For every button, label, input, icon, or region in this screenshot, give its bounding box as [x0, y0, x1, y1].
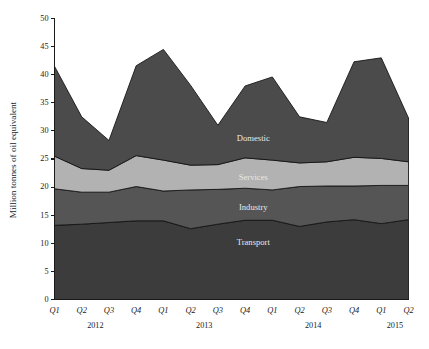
- series-label-domestic: Domestic: [237, 133, 270, 143]
- series-label-services: Services: [239, 172, 269, 182]
- x-tick-label: Q3: [322, 306, 332, 315]
- series-band-transport: [55, 220, 409, 300]
- y-tick-label: 35: [40, 98, 48, 107]
- y-tick-label: 0: [44, 295, 48, 304]
- x-tick-label: Q2: [186, 306, 196, 315]
- x-tick-label: Q4: [131, 306, 141, 315]
- x-tick-label: Q1: [376, 306, 386, 315]
- series-label-transport: Transport: [237, 237, 271, 247]
- year-label-2015: 2015: [387, 321, 403, 330]
- y-tick-label: 10: [40, 239, 48, 248]
- x-tick-label: Q2: [294, 306, 304, 315]
- y-tick-label: 30: [40, 126, 48, 135]
- x-tick-label: Q2: [403, 306, 413, 315]
- y-tick-label: 40: [40, 70, 48, 79]
- x-tick-label: Q4: [240, 306, 250, 315]
- y-tick-label: 15: [40, 211, 48, 220]
- y-axis-title: Million tonnes of oil equivalent: [8, 101, 18, 218]
- y-tick-label: 20: [40, 182, 48, 191]
- x-tick-label: Q2: [77, 306, 87, 315]
- y-tick-label: 45: [40, 42, 48, 51]
- x-tick-label: Q3: [213, 306, 223, 315]
- y-tick-label: 25: [40, 154, 48, 163]
- stacked-area-chart: 05101520253035404550 Q1Q2Q3Q4Q1Q2Q3Q4Q1Q…: [0, 0, 429, 349]
- x-tick-label: Q4: [349, 306, 359, 315]
- y-tick-label: 5: [44, 267, 48, 276]
- year-label-2012: 2012: [87, 321, 103, 330]
- x-tick-label: Q1: [49, 306, 59, 315]
- y-tick-label: 50: [40, 14, 48, 23]
- year-label-2013: 2013: [196, 321, 212, 330]
- figure-container: 05101520253035404550 Q1Q2Q3Q4Q1Q2Q3Q4Q1Q…: [0, 0, 429, 349]
- x-tick-label: Q3: [104, 306, 114, 315]
- x-tick-label: Q1: [158, 306, 168, 315]
- x-tick-label: Q1: [267, 306, 277, 315]
- series-label-industry: Industry: [239, 202, 268, 212]
- year-label-2014: 2014: [305, 321, 321, 330]
